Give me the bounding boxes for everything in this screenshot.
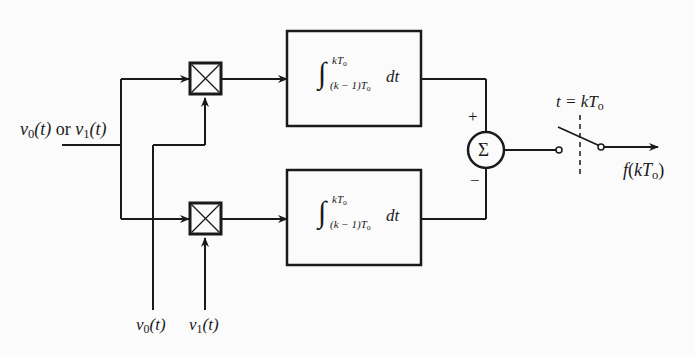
bottom-multiplier: [190, 203, 221, 234]
switch-label: t = kTo: [556, 93, 604, 113]
minus-sign: −: [470, 172, 480, 189]
v1-reference-label: v1(t): [189, 316, 219, 336]
integral-icon: ∫: [318, 195, 326, 229]
top-multiplier: [190, 63, 221, 94]
input-label: v0(t) or v1(t): [20, 120, 107, 141]
v0-reference-label: v0(t): [136, 316, 166, 336]
bottom-integrator-expression: ∫ kTo (k − 1)To dt: [318, 193, 418, 243]
diagram-canvas: v0(t) or v1(t) v0(t) v1(t) ∫ kTo (k − 1)…: [0, 0, 695, 357]
integral-icon: ∫: [318, 56, 326, 90]
top-integrator-expression: ∫ kTo (k − 1)To dt: [318, 54, 418, 104]
output-label: f((kTkTo): [623, 161, 664, 182]
plus-sign: +: [468, 108, 478, 125]
sigma-icon: Σ: [478, 140, 489, 159]
